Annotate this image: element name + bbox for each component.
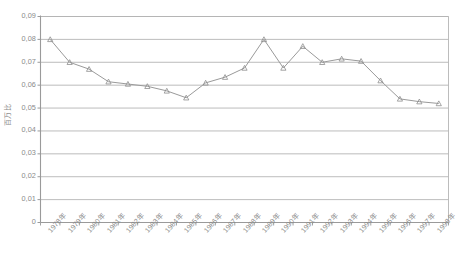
line-chart: 百万比 0,090,080,070,060,050,040,030,020,01…: [0, 0, 456, 260]
data-series-line: [50, 39, 439, 103]
